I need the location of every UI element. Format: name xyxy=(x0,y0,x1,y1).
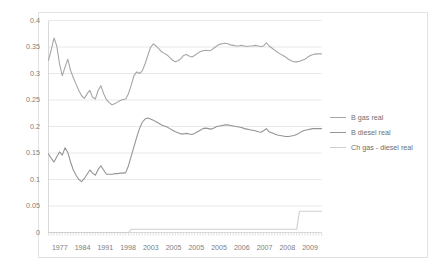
y-axis-tick-label: 0.25 xyxy=(14,96,40,104)
y-axis-tick-label: 0.3 xyxy=(14,70,40,78)
chart-legend: B gas real B diesel real Ch gas - diesel… xyxy=(330,110,430,155)
legend-item-ch-gas-diesel-real: Ch gas - diesel real xyxy=(330,140,430,155)
y-axis-tick-label: 0.4 xyxy=(14,17,40,25)
legend-item-b-gas-real: B gas real xyxy=(330,110,430,125)
y-axis-tick-label: 0.35 xyxy=(14,43,40,51)
y-axis-tick-label: 0.05 xyxy=(14,202,40,210)
legend-swatch-b-gas-real xyxy=(330,117,346,118)
x-axis-tick-label: 2009 xyxy=(297,244,323,252)
y-axis-tick-label: 0.1 xyxy=(14,176,40,184)
legend-label-b-diesel-real: B diesel real xyxy=(351,128,391,137)
chart-figure: 00.050.10.150.20.250.30.350.4 1977198419… xyxy=(0,0,442,276)
y-axis-tick-label: 0.15 xyxy=(14,149,40,157)
legend-swatch-b-diesel-real xyxy=(330,132,346,133)
y-axis-tick-label: 0.2 xyxy=(14,123,40,131)
y-axis-tick-label: 0 xyxy=(14,229,40,237)
legend-item-b-diesel-real: B diesel real xyxy=(330,125,430,140)
legend-label-b-gas-real: B gas real xyxy=(351,113,383,122)
legend-swatch-ch-gas-diesel-real xyxy=(330,147,346,148)
legend-label-ch-gas-diesel-real: Ch gas - diesel real xyxy=(351,143,413,152)
